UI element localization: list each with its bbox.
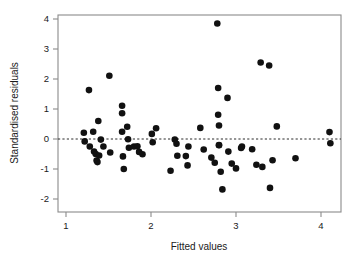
data-point	[292, 155, 299, 162]
data-point	[326, 129, 333, 136]
data-point	[219, 186, 226, 193]
data-point	[269, 157, 276, 164]
data-point	[139, 151, 146, 158]
data-point	[239, 143, 246, 150]
data-point	[149, 139, 156, 146]
data-point	[81, 138, 88, 145]
residuals-vs-fitted-scatter-chart: -2-101234 1234 Fitted values Standardise…	[0, 0, 360, 258]
data-point	[95, 118, 102, 125]
data-point	[259, 164, 266, 171]
data-point	[217, 168, 224, 175]
y-tick-label: -1	[41, 163, 49, 174]
data-point	[81, 129, 88, 136]
data-point	[125, 136, 132, 143]
data-point	[214, 20, 221, 27]
data-point	[96, 152, 103, 159]
data-point	[184, 162, 191, 169]
data-point	[327, 140, 334, 147]
data-point	[121, 166, 128, 173]
x-tick-label: 3	[233, 220, 238, 231]
data-point	[86, 87, 93, 94]
data-point	[134, 143, 141, 150]
y-tick-label: 1	[44, 103, 49, 114]
data-point	[216, 142, 223, 149]
data-points-layer	[81, 20, 334, 193]
data-point	[124, 123, 131, 130]
data-point	[173, 141, 180, 148]
data-point	[90, 129, 97, 136]
y-tick-label: -2	[41, 193, 49, 204]
y-axis-ticks	[53, 19, 58, 199]
data-point	[149, 131, 156, 138]
data-point	[257, 59, 264, 66]
data-point	[100, 143, 107, 150]
data-point	[106, 72, 113, 79]
data-point	[211, 159, 218, 166]
y-tick-label: 2	[44, 73, 49, 84]
data-point	[233, 165, 240, 172]
y-tick-label: 0	[44, 133, 49, 144]
data-point	[215, 85, 222, 92]
data-point	[200, 146, 207, 153]
y-tick-label: 4	[44, 13, 49, 24]
y-axis-title: Standardised residuals	[9, 62, 20, 164]
data-point	[197, 125, 204, 132]
x-tick-label: 1	[63, 220, 68, 231]
x-axis-title: Fitted values	[171, 241, 228, 252]
x-tick-label: 2	[148, 220, 153, 231]
scatter-plot-figure: -2-101234 1234 Fitted values Standardise…	[0, 0, 360, 258]
y-axis-tick-labels: -2-101234	[41, 13, 49, 204]
data-point	[253, 162, 260, 169]
x-axis-ticks	[66, 212, 321, 217]
data-point	[215, 111, 222, 118]
data-point	[266, 62, 273, 69]
data-point	[87, 143, 94, 150]
data-point	[224, 95, 231, 102]
data-point	[183, 153, 190, 160]
data-point	[249, 146, 256, 153]
data-point	[167, 168, 174, 175]
data-point	[216, 122, 223, 129]
data-point	[185, 143, 192, 150]
data-point	[225, 148, 232, 155]
data-point	[267, 185, 274, 192]
data-point	[94, 159, 101, 166]
data-point	[174, 153, 181, 160]
data-point	[119, 129, 126, 136]
data-point	[107, 149, 114, 156]
x-axis-tick-labels: 1234	[63, 220, 323, 231]
data-point	[119, 102, 126, 109]
x-tick-label: 4	[318, 220, 323, 231]
data-point	[274, 123, 281, 130]
data-point	[119, 110, 126, 117]
data-point	[153, 125, 160, 132]
y-tick-label: 3	[44, 43, 49, 54]
data-point	[98, 136, 105, 143]
data-point	[120, 153, 127, 160]
plot-frame	[58, 15, 341, 212]
